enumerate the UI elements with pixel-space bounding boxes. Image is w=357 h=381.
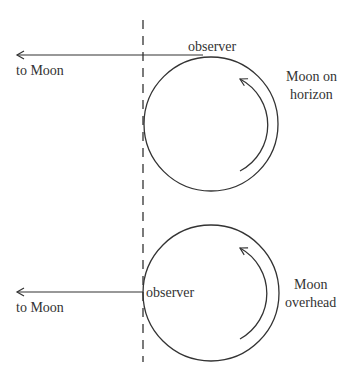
observer-label-top: observer	[188, 39, 237, 54]
rotation-arrow-top	[240, 79, 268, 171]
bottom-panel: observer to Moon Moon overhead	[16, 225, 336, 361]
earth-circle-top	[144, 57, 278, 191]
caption-top-line2: horizon	[290, 87, 333, 102]
rotation-arrow-bottom	[240, 248, 267, 339]
caption-bottom-line1: Moon	[294, 277, 327, 292]
to-moon-label-bottom: to Moon	[16, 300, 64, 315]
to-moon-label-top: to Moon	[16, 63, 64, 78]
observer-label-bottom: observer	[146, 285, 195, 300]
top-panel: observer to Moon Moon on horizon	[16, 39, 337, 191]
caption-bottom-line2: overhead	[285, 295, 336, 310]
moon-observer-diagram: observer to Moon Moon on horizon observe…	[0, 0, 357, 381]
caption-top-line1: Moon on	[286, 69, 337, 84]
